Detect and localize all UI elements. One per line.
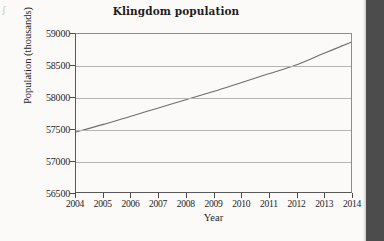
x-axis-tick-labels: 2004200520062007200820092010201120122013… bbox=[75, 198, 352, 212]
x-axis-tick-label: 2008 bbox=[171, 198, 201, 209]
x-axis-label: Year bbox=[75, 212, 352, 223]
x-axis-tick-label: 2013 bbox=[309, 198, 339, 209]
scanned-page: ʃ Klingdom population Population (thousa… bbox=[0, 0, 384, 241]
gridline-horizontal bbox=[76, 98, 351, 99]
y-axis-tick-marks bbox=[0, 33, 80, 193]
x-axis-tick-label: 2009 bbox=[199, 198, 229, 209]
gridline-horizontal bbox=[76, 130, 351, 131]
series-line-chart bbox=[76, 34, 351, 192]
x-axis-tick-label: 2004 bbox=[60, 198, 90, 209]
x-axis-tick-label: 2011 bbox=[254, 198, 284, 209]
gridline-horizontal bbox=[76, 162, 351, 163]
x-axis-tick-label: 2006 bbox=[115, 198, 145, 209]
chart-figure: Klingdom population Population (thousand… bbox=[0, 0, 366, 241]
x-axis-tick-label: 2010 bbox=[226, 198, 256, 209]
chart-title: Klingdom population bbox=[0, 5, 352, 17]
x-axis-tick-label: 2007 bbox=[143, 198, 173, 209]
page-gutter-band bbox=[366, 0, 384, 241]
plot-area bbox=[75, 33, 352, 193]
x-axis-tick-label: 2005 bbox=[88, 198, 118, 209]
x-axis-tick-label: 2012 bbox=[282, 198, 312, 209]
gridline-horizontal bbox=[76, 66, 351, 67]
series-line bbox=[76, 42, 351, 132]
